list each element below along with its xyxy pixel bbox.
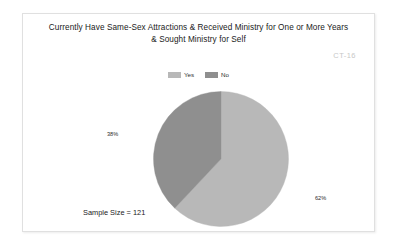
legend-label-yes: Yes xyxy=(184,72,194,78)
pie-chart xyxy=(153,91,289,227)
chart-title-line-1: Currently Have Same-Sex Attractions & Re… xyxy=(23,22,374,34)
chart-frame: Currently Have Same-Sex Attractions & Re… xyxy=(22,13,375,232)
legend-swatch-no xyxy=(205,72,218,78)
pie-chart-svg xyxy=(153,91,289,227)
chart-title-line-2: & Sought Ministry for Self xyxy=(23,34,374,46)
chart-title: Currently Have Same-Sex Attractions & Re… xyxy=(23,22,374,45)
pie-slice-group xyxy=(153,92,288,227)
legend-label-no: No xyxy=(221,72,229,78)
sample-size-note: Sample Size = 121 xyxy=(83,208,145,217)
pie-label-yes: 62% xyxy=(315,195,326,201)
pie-label-no: 38% xyxy=(107,131,118,137)
legend-swatch-yes xyxy=(168,72,181,78)
watermark-label: CT-16 xyxy=(333,51,356,60)
chart-legend: Yes No xyxy=(23,72,374,78)
legend-item-yes: Yes xyxy=(168,72,194,78)
legend-item-no: No xyxy=(205,72,229,78)
